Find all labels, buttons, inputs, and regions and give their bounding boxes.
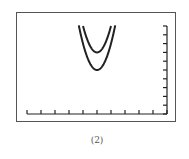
upper-parabola-curve <box>83 26 111 52</box>
y-axis <box>163 26 167 114</box>
figure-caption: (2) <box>0 135 189 145</box>
x-axis <box>27 110 167 114</box>
